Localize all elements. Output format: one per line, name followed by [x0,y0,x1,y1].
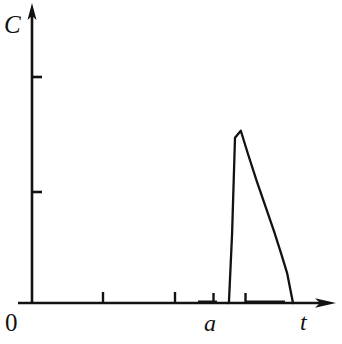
concentration-pulse-curve [229,131,293,303]
plot-figure: C t a 0 [0,0,342,344]
y-axis-ticks [32,77,42,192]
origin-label: 0 [5,310,18,335]
data-curve-group [229,131,293,303]
plot-canvas [0,0,342,344]
x-axis-ticks [103,292,285,303]
x-axis-tick-label-a: a [204,311,216,335]
axes-group [18,3,336,308]
y-axis-label: C [4,12,21,37]
x-axis-label: t [300,310,307,334]
